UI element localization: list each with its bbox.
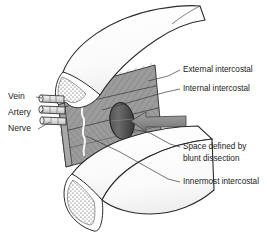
anatomy-figure: External intercostal Internal intercosta… — [0, 0, 267, 248]
label-dissection-space-line2: blunt dissection — [183, 154, 240, 163]
vein-tube-icon — [39, 95, 64, 103]
label-nerve: Nerve — [8, 123, 31, 133]
neurovascular-bundle — [39, 95, 66, 125]
label-internal-intercostal: Internal intercostal — [183, 84, 250, 93]
label-dissection-space-line1: Space defined by — [183, 142, 247, 151]
label-external-intercostal: External intercostal — [183, 65, 253, 74]
anatomy-illustration: External intercostal Internal intercosta… — [0, 0, 267, 248]
nerve-tube-icon — [40, 117, 66, 125]
label-group-left: Vein Artery Nerve — [8, 91, 32, 133]
label-artery: Artery — [8, 107, 32, 117]
label-vein: Vein — [8, 91, 25, 101]
label-innermost-intercostal: Innermost intercostal — [183, 177, 259, 186]
